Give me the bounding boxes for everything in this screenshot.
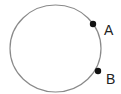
- circle-outline: [10, 5, 101, 92]
- point-b-dot: [95, 68, 101, 74]
- point-a-dot: [90, 21, 96, 27]
- point-a-label: A: [104, 22, 114, 38]
- circle-diagram: A B: [0, 0, 121, 94]
- point-b-label: B: [106, 71, 115, 87]
- point-a: A: [90, 21, 114, 38]
- point-b: B: [95, 68, 116, 87]
